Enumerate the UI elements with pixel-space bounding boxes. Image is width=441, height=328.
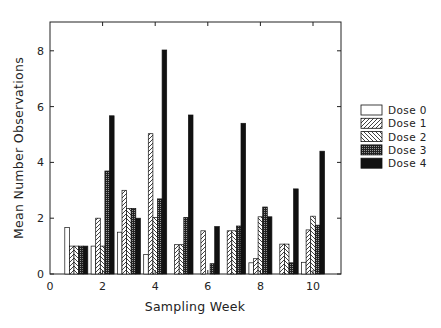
bar-week-1-dose-2 xyxy=(74,246,79,274)
y-tick-label: 4 xyxy=(37,156,44,169)
bar-week-10-dose-2 xyxy=(311,216,316,274)
bar-week-5-dose-2 xyxy=(179,245,184,274)
bar-week-10-dose-4 xyxy=(320,151,325,274)
y-tick-label: 6 xyxy=(37,101,44,114)
y-tick-label: 8 xyxy=(37,45,44,58)
bar-week-2-dose-4 xyxy=(110,116,115,274)
bar-week-4-dose-4 xyxy=(162,50,167,274)
legend-label: Dose 1 xyxy=(388,117,427,129)
bar-week-10-dose-3 xyxy=(315,225,320,274)
bar-week-9-dose-4 xyxy=(294,189,299,274)
bar-week-8-dose-1 xyxy=(254,259,259,274)
bar-week-3-dose-1 xyxy=(122,190,127,274)
bar-week-8-dose-3 xyxy=(263,207,268,274)
bar-week-2-dose-2 xyxy=(100,246,105,274)
bar-week-8-dose-4 xyxy=(267,217,272,274)
bar-week-8-dose-2 xyxy=(258,217,263,274)
bar-week-4-dose-3 xyxy=(158,199,163,274)
bar-week-9-dose-3 xyxy=(289,263,294,274)
bar-week-6-dose-4 xyxy=(215,227,220,274)
x-tick-label: 4 xyxy=(152,280,159,293)
legend-swatch-dose-1 xyxy=(361,118,382,128)
bar-week-1-dose-3 xyxy=(79,246,84,274)
bar-week-2-dose-1 xyxy=(96,218,101,274)
dose-bar-chart: 02468 0246810 Sampling Week Mean Number … xyxy=(0,0,441,328)
bar-week-1-dose-1 xyxy=(69,246,74,274)
bar-week-7-dose-3 xyxy=(236,226,241,274)
bar-week-6-dose-3 xyxy=(210,264,215,274)
legend-swatch-dose-4 xyxy=(361,158,382,168)
y-axis-title: Mean Number Observations xyxy=(11,57,26,239)
bars-group xyxy=(65,50,325,274)
x-tick-label: 2 xyxy=(99,280,106,293)
bar-week-2-dose-0 xyxy=(91,246,96,274)
bar-week-3-dose-3 xyxy=(131,208,136,274)
x-axis-title: Sampling Week xyxy=(145,299,246,314)
bar-week-5-dose-1 xyxy=(175,245,180,274)
bar-week-7-dose-4 xyxy=(241,123,246,274)
x-tick-label: 8 xyxy=(257,280,264,293)
bar-week-5-dose-3 xyxy=(184,217,189,274)
bar-week-3-dose-4 xyxy=(136,218,141,274)
legend-swatch-dose-0 xyxy=(361,105,382,115)
bar-week-1-dose-4 xyxy=(83,246,88,274)
legend: Dose 0Dose 1Dose 2Dose 3Dose 4 xyxy=(361,104,427,169)
x-tick-label: 10 xyxy=(306,280,320,293)
legend-label: Dose 3 xyxy=(388,144,427,156)
bar-week-3-dose-0 xyxy=(117,232,122,274)
bar-week-7-dose-1 xyxy=(227,231,232,274)
legend-swatch-dose-2 xyxy=(361,132,382,142)
bar-week-4-dose-0 xyxy=(144,255,149,275)
bar-week-4-dose-1 xyxy=(148,134,153,274)
bar-week-9-dose-2 xyxy=(284,244,289,274)
bar-week-10-dose-0 xyxy=(302,262,307,274)
bar-week-9-dose-1 xyxy=(280,244,285,274)
bar-week-8-dose-0 xyxy=(249,263,254,274)
bar-week-3-dose-2 xyxy=(127,208,132,274)
legend-label: Dose 0 xyxy=(388,104,427,116)
bar-week-1-dose-0 xyxy=(65,227,70,274)
bar-week-4-dose-2 xyxy=(153,217,158,274)
bar-week-5-dose-4 xyxy=(188,115,193,274)
legend-label: Dose 4 xyxy=(388,157,427,169)
y-tick-label: 2 xyxy=(37,212,44,225)
bar-week-2-dose-3 xyxy=(105,171,110,274)
y-tick-label: 0 xyxy=(37,268,44,281)
bar-week-10-dose-1 xyxy=(306,230,311,274)
x-tick-label: 6 xyxy=(204,280,211,293)
legend-label: Dose 2 xyxy=(388,131,427,143)
bar-week-7-dose-2 xyxy=(232,231,237,274)
legend-swatch-dose-3 xyxy=(361,145,382,155)
plot-area: 02468 0246810 xyxy=(37,22,341,293)
bar-week-6-dose-1 xyxy=(201,231,206,274)
x-tick-label: 0 xyxy=(47,280,54,293)
